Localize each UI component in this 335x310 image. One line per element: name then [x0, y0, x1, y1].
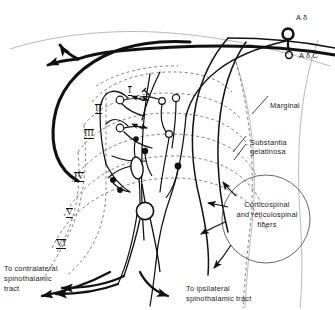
- bouton-stalks: [113, 154, 178, 198]
- label-contralateral-2: spinothalamic: [4, 274, 52, 283]
- label-substantia-gelatinosa-2: gelatinosa: [250, 147, 286, 156]
- dorsal-root-afferents: [78, 38, 335, 275]
- lissauer-bifurcation: [48, 45, 78, 65]
- lamina-label-iv: IV: [74, 172, 84, 182]
- lamina-label-iii: III: [84, 129, 94, 139]
- contralateral-output-tracts: [42, 272, 124, 296]
- arrow-terminals: [132, 90, 150, 128]
- a-delta-bulb: [283, 29, 294, 40]
- label-substantia-gelatinosa-1: Substantia: [250, 138, 287, 147]
- label-marginal: Marginal: [270, 101, 300, 110]
- lamina-label-vi: VI: [56, 239, 66, 249]
- label-corticospinal-2: and reticulospinal: [222, 210, 312, 219]
- lamina-label-i: I: [128, 86, 132, 96]
- lamina-numeral-text: I: [128, 86, 132, 96]
- label-a-beta-c: A δ,C: [299, 51, 318, 60]
- label-a-delta: A δ: [296, 13, 307, 22]
- lamina-numeral-text: V: [66, 208, 73, 218]
- lamina-numeral-text: VI: [56, 239, 66, 249]
- label-corticospinal-3: fibers: [233, 220, 301, 229]
- label-ipsilateral-2: spinothalamic tract: [186, 294, 251, 303]
- fusiform-projection-neuron: [108, 138, 144, 204]
- descending-fiber-arrows: [201, 182, 236, 268]
- label-corticospinal-1: Corticospinal: [233, 200, 301, 209]
- label-contralateral-1: To contralateral: [4, 264, 58, 273]
- lamina-numeral-text: II: [95, 104, 102, 114]
- gray-matter-outline: [10, 31, 330, 308]
- lamina-label-v: V: [66, 208, 73, 218]
- lamina-numeral-text: IV: [74, 172, 84, 182]
- lamina-numeral-text: III: [84, 129, 94, 139]
- white-matter-border: [53, 42, 190, 181]
- label-contralateral-3: tract: [4, 284, 19, 293]
- dorsal-horn-diagram: A δ A δ,C Marginal Substantia gelatinosa…: [0, 0, 335, 310]
- lamina-label-ii: II: [95, 104, 102, 114]
- label-ipsilateral-1: To ipsilateral: [186, 284, 230, 293]
